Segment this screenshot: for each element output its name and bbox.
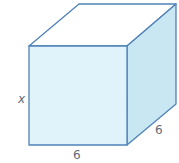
depth-label: 6: [155, 123, 163, 137]
height-label: x: [17, 92, 26, 106]
width-label: 6: [73, 148, 81, 162]
front-face: [29, 46, 127, 145]
cube-diagram: x 6 6: [0, 0, 179, 163]
